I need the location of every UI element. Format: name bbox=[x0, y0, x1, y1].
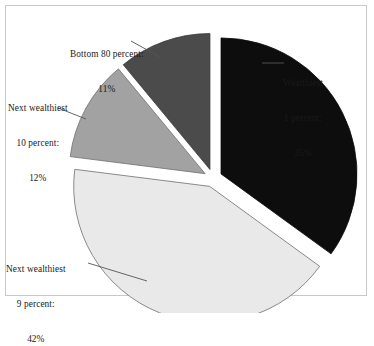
label-next-9-line2: 9 percent: bbox=[6, 299, 66, 311]
label-bottom-80-line1: Bottom 80 percent: bbox=[70, 49, 144, 61]
label-next-wealthiest-10-percent: Next wealthiest 10 percent: 12% bbox=[8, 80, 68, 196]
label-next-wealthiest-9-percent: Next wealthiest 9 percent: 42% bbox=[6, 241, 66, 346]
label-bottom-80-percent: Bottom 80 percent: 11% bbox=[70, 26, 144, 107]
label-wealthiest-1-value: 35% bbox=[283, 148, 323, 160]
label-next-10-line2: 10 percent: bbox=[8, 138, 68, 150]
label-bottom-80-value: 11% bbox=[70, 84, 144, 96]
label-next-10-value: 12% bbox=[8, 173, 68, 185]
label-next-9-line1: Next wealthiest bbox=[6, 264, 66, 276]
label-wealthiest-1-line1: Wealthiest bbox=[283, 78, 323, 90]
label-wealthiest-1-percent: Wealthiest 1 percent: 35% bbox=[283, 55, 323, 171]
label-next-10-line1: Next wealthiest bbox=[8, 103, 68, 115]
label-next-9-value: 42% bbox=[6, 334, 66, 346]
label-wealthiest-1-line2: 1 percent: bbox=[283, 113, 323, 125]
